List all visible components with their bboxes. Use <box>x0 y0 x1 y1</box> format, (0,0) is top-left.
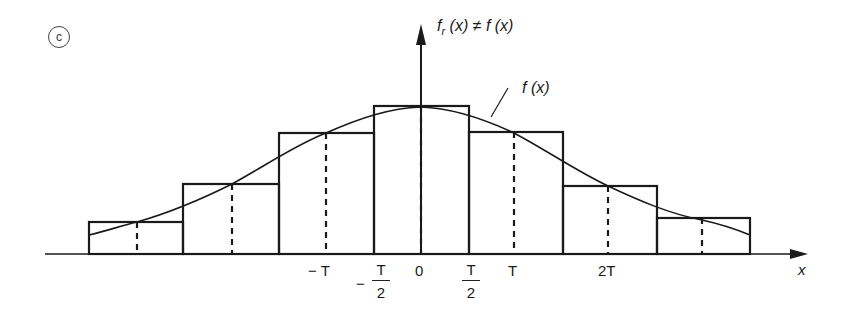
tick-minus-half-T-den: 2 <box>370 281 392 300</box>
panel-label-badge: c <box>48 26 70 48</box>
staircase-fr <box>89 106 750 254</box>
panel-label-text: c <box>56 30 62 44</box>
tick-half-T: T 2 <box>460 262 482 300</box>
curve-label-pointer <box>491 88 508 117</box>
tick-zero: 0 <box>415 263 423 278</box>
sample-lines <box>137 106 702 254</box>
curve-fx <box>89 107 750 235</box>
tick-half-T-den: 2 <box>460 281 482 300</box>
tick-T: T <box>508 263 517 278</box>
y-axis-arrow-icon <box>416 24 426 45</box>
x-axis-arrow-icon <box>790 249 808 259</box>
y-label-rest: (x) ≠ f (x) <box>445 17 513 34</box>
y-axis-label: fr (x) ≠ f (x) <box>437 18 513 37</box>
tick-minus-half-T-num: T <box>370 262 392 280</box>
tick-2T: 2T <box>598 263 616 278</box>
x-axis-label: x <box>798 262 806 277</box>
tick-minus-T: − T <box>308 263 330 278</box>
curve-label: f (x) <box>522 80 550 96</box>
tick-half-T-num: T <box>460 262 482 280</box>
tick-minus-half-T: T 2 <box>370 262 392 300</box>
tick-minus-half-T-sign: − <box>356 276 365 291</box>
